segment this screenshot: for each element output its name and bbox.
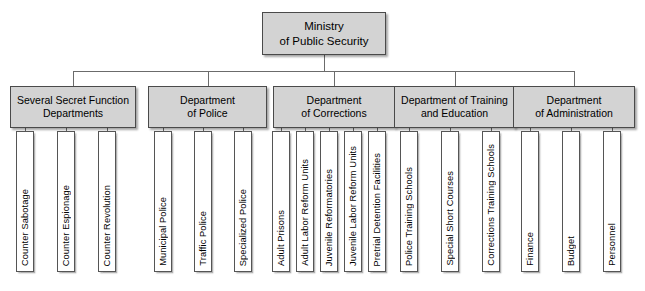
leaf-node-label: Finance [525, 227, 535, 271]
leaf-node-label: Adult Labor Reform Units [300, 154, 310, 271]
leaf-node-corrections-1[interactable]: Adult Labor Reform Units [296, 131, 314, 272]
dept-node-label: Department of Corrections [297, 94, 370, 120]
connector-dept-drop-corrections [334, 71, 335, 86]
leaf-node-administration-2[interactable]: Personnel [603, 131, 621, 272]
dept-node-police[interactable]: Department of Police [148, 86, 267, 128]
leaf-node-administration-0[interactable]: Finance [521, 131, 539, 272]
leaf-node-label: Police Training Schools [404, 162, 414, 271]
dept-node-corrections[interactable]: Department of Corrections [273, 86, 395, 128]
leaf-node-police-1[interactable]: Traffic Police [194, 131, 212, 272]
dept-node-label: Department of Police [176, 94, 239, 120]
leaf-node-corrections-3[interactable]: Juvenile Labor Reform Units [344, 131, 362, 272]
dept-node-secret-function[interactable]: Several Secret Function Departments [10, 86, 136, 128]
leaf-node-secret-function-1[interactable]: Counter Espionage [57, 131, 75, 272]
root-node-label: Ministry of Public Security [276, 19, 373, 47]
leaf-node-secret-function-0[interactable]: Counter Sabotage [16, 131, 34, 272]
connector-dept-drop-police [208, 71, 209, 86]
leaf-node-label: Juvenile Labor Reform Units [348, 141, 358, 271]
leaf-node-police-0[interactable]: Municipal Police [154, 131, 172, 272]
dept-node-label: Department of Training and Education [397, 94, 512, 120]
connector-bus [73, 71, 574, 72]
leaf-node-secret-function-2[interactable]: Counter Revolution [98, 131, 116, 272]
leaf-node-training-education-2[interactable]: Corrections Training Schools [482, 131, 500, 272]
leaf-node-label: Juvenile Reformatories [324, 164, 334, 271]
leaf-node-administration-1[interactable]: Budget [562, 131, 580, 272]
leaf-node-corrections-4[interactable]: Pretrial Detention Facilities [368, 131, 386, 272]
connector-dept-drop-administration [574, 71, 575, 86]
dept-node-training-education[interactable]: Department of Training and Education [394, 86, 515, 128]
leaf-node-label: Budget [566, 231, 576, 271]
leaf-node-corrections-0[interactable]: Adult Prisons [272, 131, 290, 272]
leaf-node-label: Personnel [607, 218, 617, 271]
leaf-node-label: Adult Prisons [276, 205, 286, 271]
leaf-node-label: Counter Sabotage [20, 184, 30, 271]
leaf-node-label: Specialized Police [238, 184, 248, 271]
leaf-node-training-education-0[interactable]: Police Training Schools [400, 131, 418, 272]
leaf-node-label: Municipal Police [158, 192, 168, 271]
org-chart: Ministry of Public Security Several Secr… [0, 0, 645, 291]
leaf-node-label: Special Short Courses [445, 166, 455, 271]
connector-dept-drop-secret-function [73, 71, 74, 86]
leaf-node-training-education-1[interactable]: Special Short Courses [441, 131, 459, 272]
dept-node-label: Several Secret Function Departments [13, 94, 133, 120]
leaf-node-police-2[interactable]: Specialized Police [234, 131, 252, 272]
leaf-node-label: Pretrial Detention Facilities [372, 148, 382, 271]
leaf-node-label: Counter Espionage [61, 180, 71, 271]
root-node-ministry[interactable]: Ministry of Public Security [262, 12, 386, 55]
dept-node-administration[interactable]: Department of Administration [513, 86, 635, 128]
leaf-node-corrections-2[interactable]: Juvenile Reformatories [320, 131, 338, 272]
leaf-node-label: Corrections Training Schools [486, 139, 496, 271]
connector-dept-drop-training-education [455, 71, 456, 86]
dept-node-label: Department of Administration [531, 94, 617, 120]
leaf-node-label: Counter Revolution [102, 180, 112, 271]
connector-root-stem [324, 55, 325, 71]
leaf-node-label: Traffic Police [198, 206, 208, 271]
